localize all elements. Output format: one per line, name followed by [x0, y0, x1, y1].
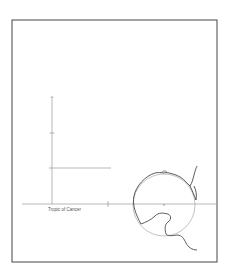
coastline-northeast-outline: [190, 166, 197, 186]
globe-center-dot: [163, 204, 165, 206]
tropic-of-cancer-label: Tropic of Cancer: [48, 207, 82, 212]
coastline-north-outline: [133, 173, 196, 224]
coastline-south-outline: [141, 213, 197, 250]
diagram-frame: [12, 20, 217, 262]
tropic-diagram: Tropic of Cancer: [0, 0, 228, 276]
